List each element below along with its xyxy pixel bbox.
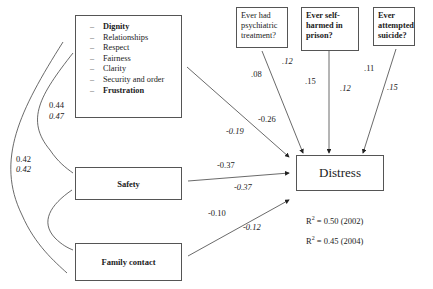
factor-item-respect: –Respect: [90, 43, 181, 54]
r-squared-2004: R2 = 0.45 (2004): [306, 235, 363, 246]
coef-selfharm-distress-2004: .12: [340, 83, 351, 93]
factor-item-fairness: –Fairness: [90, 54, 181, 65]
factor-item-relationships: –Relationships: [90, 33, 181, 44]
coef-psychiatric-distress-2002: .08: [251, 69, 262, 79]
coef-factors-distress-2004: -0.19: [226, 126, 244, 136]
coef-family-distress-2002: -0.10: [208, 208, 226, 218]
arrow-psychiatric-distress: [262, 51, 303, 153]
coef-suicide-distress-2002: .11: [364, 63, 374, 73]
coef-factors-safety-2004: 0.47: [49, 111, 64, 121]
coef-factors-family-2004: 0.42: [16, 164, 31, 174]
coef-factors-family-2002: 0.42: [16, 154, 31, 164]
arrow-family-distress: [188, 200, 289, 256]
corr-curve-safety-family: [48, 190, 73, 250]
family-contact-node: Family contact: [75, 243, 182, 281]
factor-item-security: –Security and order: [90, 75, 181, 86]
coef-safety-distress-2002: -0.37: [217, 160, 235, 170]
coef-factors-distress-2002: -0.26: [258, 114, 276, 124]
coef-factors-safety-2002: 0.44: [49, 100, 64, 110]
coef-safety-distress-2004: -0.37: [234, 182, 252, 192]
coef-psychiatric-distress-2004: .12: [282, 56, 293, 66]
factors-list: –Dignity –Relationships –Respect –Fairne…: [90, 22, 181, 96]
question-selfharm-box: Ever self- harmed in prison?: [301, 7, 359, 51]
factor-item-frustration: –Frustration: [90, 86, 181, 97]
prison-quality-factors-box: –Dignity –Relationships –Respect –Fairne…: [75, 15, 182, 118]
distress-node: Distress: [296, 155, 384, 191]
question-psychiatric-box: Ever had psychiatric treatment?: [236, 7, 288, 48]
coef-suicide-distress-2004: .15: [387, 82, 398, 92]
coef-family-distress-2004: -0.12: [243, 222, 261, 232]
coef-selfharm-distress-2002: .15: [305, 76, 316, 86]
connector-lines: [0, 0, 433, 289]
r-squared-2002: R2 = 0.50 (2002): [306, 215, 363, 226]
safety-node: Safety: [75, 167, 182, 200]
question-suicide-box: Ever attempted suicide?: [373, 7, 415, 46]
factor-item-clarity: –Clarity: [90, 64, 181, 75]
factor-item-dignity: –Dignity: [90, 22, 181, 33]
arrow-safety-distress: [188, 173, 289, 181]
